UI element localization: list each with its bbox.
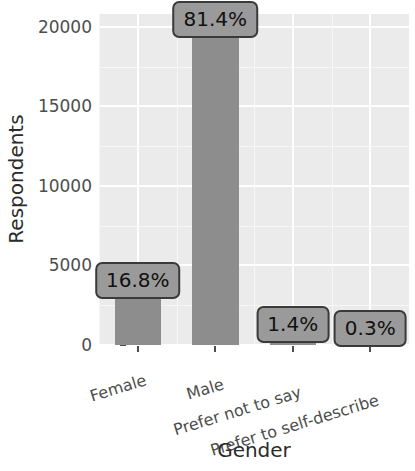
y-tick-label: 20000 <box>26 17 92 37</box>
bar <box>192 35 239 345</box>
data-label: 16.8% <box>95 262 181 299</box>
y-tick-label: 0 <box>26 335 92 355</box>
data-label: 1.4% <box>256 306 329 343</box>
y-tick-label: 10000 <box>26 176 92 196</box>
vgridline-major <box>369 14 371 345</box>
data-label: 81.4% <box>172 1 258 38</box>
vgridline-major <box>292 14 294 345</box>
x-tick-mark <box>292 346 294 352</box>
vgridline-minor <box>254 14 255 345</box>
x-tick-mark <box>369 346 371 352</box>
x-axis-title: Gender <box>99 438 409 462</box>
bar <box>115 296 162 345</box>
data-label: 0.3% <box>334 310 407 347</box>
y-tick-label: 15000 <box>26 96 92 116</box>
vgridline-minor <box>332 14 333 345</box>
x-tick-mark <box>214 346 216 352</box>
bar-chart: Respondents 05000100001500020000 FemaleM… <box>0 0 415 471</box>
x-tick-mark <box>137 346 139 352</box>
y-tick-label: 5000 <box>26 255 92 275</box>
